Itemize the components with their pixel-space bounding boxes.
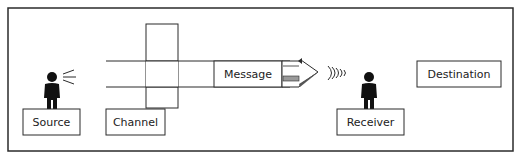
source-label: Source	[33, 116, 71, 129]
communication-diagram: Message Source Channel Receiver D	[0, 0, 521, 157]
message-label: Message	[224, 68, 272, 81]
channel-label: Channel	[113, 116, 158, 129]
receiver-label: Receiver	[347, 116, 395, 129]
destination-label: Destination	[427, 68, 490, 81]
